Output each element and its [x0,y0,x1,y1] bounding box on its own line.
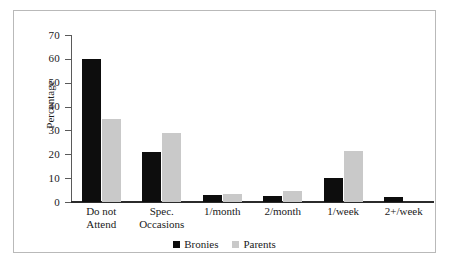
bar-parents-3 [283,191,302,202]
y-axis-tick-label: 50 [16,77,60,88]
y-axis-tick-label: 60 [16,53,60,64]
y-axis-tick [65,202,71,203]
y-axis-tick-label: 10 [16,173,60,184]
legend-entry-parents: Parents [232,239,275,250]
legend-label: Parents [243,239,275,250]
bar-parents-0 [102,119,121,203]
chart-frame: Percentage 010203040506070 Do not Attend… [13,10,436,253]
black-square-icon [173,241,180,248]
bar-parents-1 [162,133,181,202]
bar-bronies-0 [82,59,101,202]
bar-bronies-4 [324,178,343,202]
y-axis-tick-label: 30 [16,125,60,136]
bar-parents-4 [344,151,363,202]
legend-entry-bronies: Bronies [173,239,218,250]
bar-bronies-1 [142,152,161,202]
chart-legend: BroniesParents [14,239,435,250]
bar-bronies-2 [203,195,222,202]
y-axis-tick-label: 0 [16,197,60,208]
y-axis-tick-label: 20 [16,149,60,160]
legend-label: Bronies [184,239,218,250]
bar-parents-2 [223,194,242,202]
y-axis-tick-label: 70 [16,30,60,41]
x-axis-category-label: 2+/week [359,205,449,218]
bar-bronies-3 [263,196,282,202]
y-axis-tick-label: 40 [16,101,60,112]
chart-figure: Percentage 010203040506070 Do not Attend… [0,0,449,264]
bar-bronies-5 [384,197,403,202]
plot-area [71,35,434,202]
gray-square-icon [232,241,239,248]
